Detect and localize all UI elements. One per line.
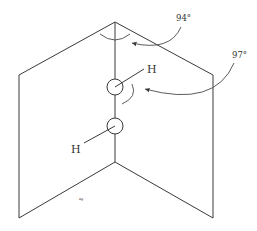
arrow-97-leader: [145, 63, 234, 95]
stray-mark: ag: [79, 197, 84, 201]
bond-lower-oh: [84, 126, 115, 143]
atom-label-h-upper: H: [147, 63, 157, 76]
bond-angle-arc: [122, 84, 134, 104]
arrow-94-leader: [132, 27, 181, 45]
atom-label-h-lower: H: [71, 143, 81, 156]
right-plane: [115, 22, 213, 218]
angle-label-97: 97°: [232, 50, 247, 60]
bond-upper-oh: [115, 69, 144, 87]
left-plane: [19, 22, 115, 218]
angle-label-94: 94°: [176, 13, 191, 23]
peroxide-geometry-diagram: H H 94° 97° ag: [0, 0, 257, 231]
